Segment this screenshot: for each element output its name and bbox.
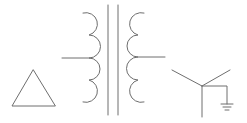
iron-core	[108, 5, 118, 115]
wye-symbol-icon	[172, 70, 230, 117]
ground-icon	[221, 104, 233, 110]
secondary-coil	[127, 13, 165, 103]
transformer-diagram	[0, 0, 247, 123]
delta-symbol-icon	[12, 70, 55, 106]
primary-coil	[62, 13, 101, 103]
